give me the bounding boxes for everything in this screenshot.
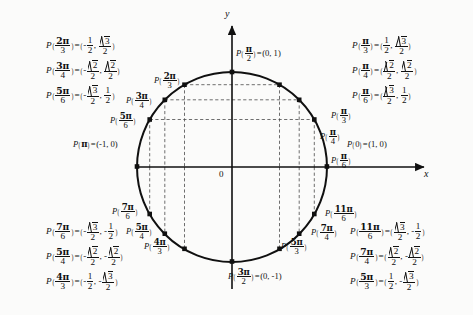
- fraction: 12: [401, 86, 408, 106]
- right-paren: ): [71, 278, 73, 287]
- point-pi-over-2: [230, 70, 235, 75]
- coords-row: P(4π3)=(-12, -32): [46, 272, 123, 293]
- denominator: 2: [388, 281, 395, 291]
- angle-argument: (3π4): [52, 61, 74, 81]
- coord-value: -12: [411, 226, 422, 236]
- fraction: 22: [408, 246, 420, 267]
- angle-fraction: 3π4: [55, 61, 70, 81]
- left-paren: (: [81, 253, 83, 262]
- denominator: 2: [388, 257, 400, 267]
- coord-value: -22: [83, 65, 99, 75]
- coordinate-pair: (12, 32): [380, 36, 412, 57]
- label-P-pi: P(π)=(-1, 0): [73, 140, 118, 149]
- fraction: 32: [87, 85, 99, 106]
- fraction: 32: [87, 222, 99, 243]
- angle-argument: (4π3): [52, 272, 74, 292]
- coord-value: 32: [383, 90, 396, 100]
- point-7pi-over-6: [147, 212, 152, 217]
- coord-value: 32: [395, 40, 408, 50]
- left-paren: (: [81, 278, 83, 287]
- right-paren: ): [375, 253, 377, 262]
- coords-row: P(5π6)=(-32, 12): [46, 86, 120, 107]
- left-paren: (: [385, 278, 387, 287]
- numerator: 1: [104, 86, 111, 95]
- point-5pi-over-6: [147, 117, 152, 122]
- angle-argument: (π3): [358, 37, 374, 57]
- left-paren: (: [81, 42, 83, 51]
- coordinate-pair: (32, -12): [390, 222, 425, 243]
- denominator: 2: [395, 46, 407, 56]
- fraction: 22: [401, 60, 413, 81]
- point-pi-over-6: [312, 117, 317, 122]
- coord-value: -22: [83, 251, 99, 261]
- denominator: 2: [104, 95, 111, 105]
- coord-value: 12: [401, 90, 409, 100]
- right-paren: ): [112, 42, 114, 51]
- denominator: 2: [394, 232, 406, 242]
- label-P-pi-over-3: P(π3): [331, 107, 351, 126]
- fraction: 32: [395, 36, 407, 57]
- right-paren: ): [71, 67, 73, 76]
- radical: 3: [87, 85, 99, 95]
- coord-value: -32: [83, 90, 99, 100]
- label-P-5pi-over-6: P(5π6): [110, 112, 136, 131]
- point-3pi-over-4: [163, 98, 168, 103]
- fraction: 32: [99, 36, 111, 57]
- label-P-7pi-over-6: P(7π6): [112, 203, 138, 222]
- angle-fraction: 5π3: [359, 272, 374, 292]
- left-paren: (: [81, 228, 83, 237]
- radical: 3: [383, 85, 395, 95]
- radical: 3: [87, 222, 99, 232]
- coordinate-pair: (-22, 22): [80, 61, 120, 82]
- denominator: 2: [383, 71, 395, 81]
- left-paren: (: [380, 67, 382, 76]
- point-pi-over-3: [277, 82, 282, 87]
- coords-row: P(5π3)=(12, -32): [350, 272, 425, 293]
- left-paren: (: [380, 42, 382, 51]
- numerator: 1: [415, 222, 422, 231]
- coords-row: P(π4)=(22, 22): [352, 61, 417, 82]
- denominator: 2: [99, 46, 111, 56]
- right-paren: ): [422, 253, 424, 262]
- left-paren: (: [358, 42, 360, 51]
- y-axis-label: y: [225, 8, 229, 19]
- comma: ,: [396, 65, 401, 75]
- denominator: 2: [383, 96, 395, 106]
- left-paren: (: [52, 42, 54, 51]
- fraction: 12: [87, 36, 94, 56]
- angle-argument: (5π4): [52, 247, 74, 267]
- denominator: 2: [401, 71, 413, 81]
- point-2pi-over-3: [182, 82, 187, 87]
- coords-row: P(5π4)=(-22, -22): [46, 247, 123, 268]
- left-paren: (: [358, 92, 360, 101]
- coord-value: 12: [387, 276, 395, 286]
- coordinate-pair: (12, -32): [384, 272, 419, 293]
- angle-fraction: π3: [361, 36, 370, 56]
- angle-fraction: π4: [361, 61, 370, 81]
- fraction: 22: [104, 60, 116, 81]
- radical: 2: [87, 60, 99, 70]
- comma: ,: [396, 90, 401, 100]
- coords-row: P(π6)=(32, 12): [352, 86, 417, 107]
- coordinate-pair: (-12, 32): [80, 36, 115, 57]
- left-paren: (: [52, 228, 54, 237]
- left-paren: (: [81, 92, 83, 101]
- coord-value: -32: [83, 226, 99, 236]
- right-paren: ): [71, 92, 73, 101]
- coords-block-bottom-left: P(7π6)=(-32, -12)P(5π4)=(-22, -22)P(4π3)…: [46, 222, 123, 297]
- right-paren: ): [416, 278, 418, 287]
- coord-value: -32: [399, 276, 415, 286]
- label-P-pi-over-2: P(π2)=(0, 1): [236, 45, 281, 64]
- coord-value: 32: [98, 40, 111, 50]
- coord-value: 32: [394, 226, 407, 236]
- denominator: 2: [415, 231, 422, 241]
- left-paren: (: [380, 92, 382, 101]
- left-paren: (: [356, 228, 358, 237]
- angle-fraction: π6: [361, 86, 370, 106]
- fraction: 12: [383, 36, 390, 56]
- denominator: 2: [87, 281, 94, 291]
- left-paren: (: [391, 228, 393, 237]
- angle-fraction: 5π4: [55, 247, 70, 267]
- left-paren: (: [81, 67, 83, 76]
- coordinate-pair: (32, 12): [380, 86, 412, 107]
